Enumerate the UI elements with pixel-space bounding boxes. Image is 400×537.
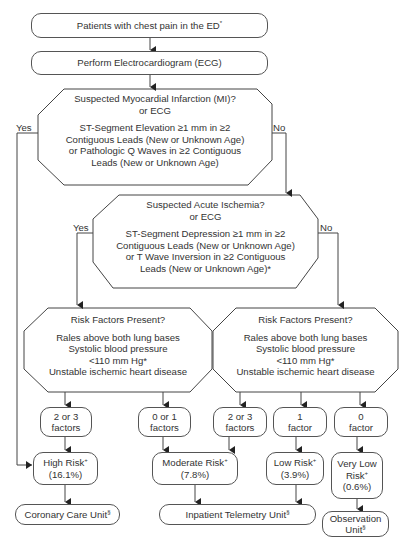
ischemia-or: or ECG	[93, 211, 318, 223]
risk-label: Low Risk	[274, 457, 313, 468]
mi-line-2: Contiguous Leads (New or Unknown Age)	[38, 134, 272, 146]
ischemia-line-2: Contiguous Leads (New or Unknown Age)	[93, 240, 318, 252]
ischemia-decision: Suspected Acute Ischemia? or ECG ST-Segm…	[93, 199, 318, 274]
destination-label-line-1: Observation	[330, 513, 382, 525]
mi-or: or ECG	[38, 105, 272, 117]
mi-line-4: Leads (New or Unknown Age)	[38, 157, 272, 169]
risk-node-high: High Risk+ (16.1%)	[33, 452, 98, 485]
ischemia-line-3: or T Wave Inversion in ≥2 Contiguous	[93, 251, 318, 263]
risk-label: High Risk	[43, 457, 84, 468]
factor-node: 0 factor	[334, 407, 388, 437]
risk-left-line-2: Systolic blood pressure	[24, 343, 212, 355]
destination-coronary-care: Coronary Care Unit§	[15, 504, 120, 525]
factor-unit: factor	[349, 422, 373, 434]
factor-count: 2 or 3	[54, 411, 79, 423]
destination-observation: Observation Unit§	[322, 511, 389, 537]
factor-count: 1	[297, 411, 302, 423]
destination-telemetry: Inpatient Telemetry Unit§	[159, 504, 316, 525]
risk-left-line-3: <110 mm Hg*	[24, 355, 212, 367]
factor-node: 2 or 3 factors	[40, 407, 92, 437]
risk-percent: (0.6%)	[343, 481, 371, 493]
mi-decision: Suspected Myocardial Infarction (MI)? or…	[38, 93, 272, 168]
ischemia-yes-label: Yes	[73, 222, 89, 233]
mi-yes-label: Yes	[16, 122, 32, 133]
factor-unit: factor	[288, 422, 312, 434]
factor-count: 0 or 1	[152, 411, 177, 423]
risk-node-very-low: Very Low Risk+ (0.6%)	[331, 452, 383, 499]
risk-mark: +	[224, 457, 228, 463]
start-node: Patients with chest pain in the ED*	[31, 13, 268, 38]
risk-right-line-3: <110 mm Hg*	[213, 355, 398, 367]
risk-percent: (7.8%)	[181, 469, 209, 481]
risk-right-decision: Risk Factors Present? Rales above both l…	[213, 314, 398, 378]
factor-node: 1 factor	[273, 407, 327, 437]
factor-node: 0 or 1 factors	[138, 407, 191, 437]
ischemia-no-label: No	[320, 222, 332, 233]
destination-label-line-2: Unit	[345, 524, 362, 535]
destination-label: Inpatient Telemetry Unit	[186, 509, 287, 520]
risk-mark: +	[365, 470, 369, 476]
risk-mark: +	[313, 457, 317, 463]
risk-right-line-4: Unstable ischemic heart disease	[213, 366, 398, 378]
risk-label-line-2: Risk	[346, 470, 365, 481]
destination-mark: §	[362, 524, 365, 530]
risk-percent: (16.1%)	[49, 469, 83, 481]
start-text: Patients with chest pain in the ED	[77, 20, 220, 31]
risk-node-moderate: Moderate Risk+ (7.8%)	[152, 452, 238, 485]
factor-node: 2 or 3 factors	[213, 407, 267, 437]
risk-right-line-1: Rales above both lung bases	[213, 332, 398, 344]
ischemia-line-1: ST-Segment Depression ≥1 mm in ≥2	[93, 228, 318, 240]
destination-label: Coronary Care Unit	[25, 509, 108, 520]
mi-line-3: or Pathologic Q Waves in ≥2 Contiguous	[38, 145, 272, 157]
risk-left-line-1: Rales above both lung bases	[24, 332, 212, 344]
destination-mark: §	[107, 509, 110, 515]
ischemia-title: Suspected Acute Ischemia?	[93, 199, 318, 211]
mi-no-label: No	[273, 122, 285, 133]
mi-line-1: ST-Segment Elevation ≥1 mm in ≥2	[38, 122, 272, 134]
ecg-node: Perform Electrocardiogram (ECG)	[31, 51, 268, 75]
factor-unit: factors	[226, 422, 255, 434]
risk-node-low: Low Risk+ (3.9%)	[266, 452, 324, 485]
ischemia-line-4: Leads (New or Unknown Age)*	[93, 263, 318, 275]
factor-unit: factors	[150, 422, 179, 434]
factor-count: 2 or 3	[228, 411, 253, 423]
mi-title: Suspected Myocardial Infarction (MI)?	[38, 93, 272, 105]
start-mark: *	[220, 20, 222, 26]
risk-percent: (3.9%)	[281, 469, 309, 481]
risk-mark: +	[84, 457, 88, 463]
risk-right-title: Risk Factors Present?	[213, 314, 398, 326]
risk-left-decision: Risk Factors Present? Rales above both l…	[24, 314, 212, 378]
risk-left-line-4: Unstable ischemic heart disease	[24, 366, 212, 378]
destination-mark: §	[286, 509, 289, 515]
ecg-text: Perform Electrocardiogram (ECG)	[77, 57, 221, 69]
risk-right-line-2: Systolic blood pressure	[213, 343, 398, 355]
risk-left-title: Risk Factors Present?	[24, 314, 212, 326]
factor-count: 0	[358, 411, 363, 423]
factor-unit: factors	[52, 422, 81, 434]
risk-label: Moderate Risk	[162, 457, 224, 468]
risk-label-line-1: Very Low	[337, 458, 376, 470]
